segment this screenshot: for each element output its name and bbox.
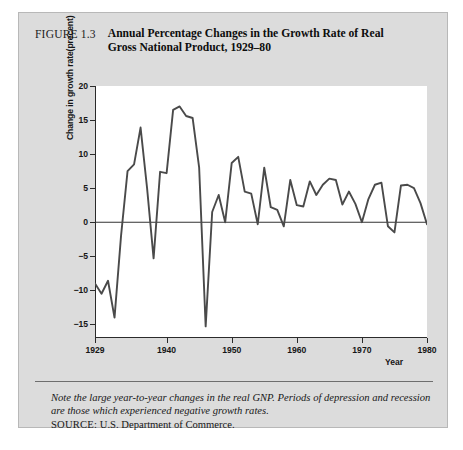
figure-title: Annual Percentage Changes in the Growth …	[108, 27, 408, 55]
y-axis-tick-10: 10	[54, 149, 95, 159]
gnp-growth-polyline	[95, 106, 427, 326]
x-axis-tick-1960: 1960	[274, 345, 320, 355]
x-axis-tick-1950: 1950	[209, 345, 255, 355]
y-axis-tick-neg5: −5	[54, 251, 95, 261]
x-axis-tick-1929: 1929	[72, 345, 118, 355]
x-axis-tick-1980: 1980	[404, 345, 450, 355]
x-axis-tickmark	[362, 338, 363, 343]
figure-source: SOURCE: U.S. Department of Commerce.	[51, 419, 235, 430]
x-axis-tick-1970: 1970	[339, 345, 385, 355]
chart-plot-region: Change in growth rate(precent) 20151050−…	[95, 86, 427, 338]
y-axis-tick-5: 5	[54, 183, 95, 193]
x-axis-tickmark	[427, 338, 428, 343]
x-axis-tickmark	[232, 338, 233, 343]
x-axis-tick-1940: 1940	[144, 345, 190, 355]
x-axis-tickmark	[95, 338, 96, 343]
source-text: U.S. Department of Commerce.	[100, 419, 235, 430]
figure-header: FIGURE 1.3 Annual Percentage Changes in …	[35, 27, 435, 55]
line-series-gnp-growth	[95, 86, 427, 338]
figure-frame: FIGURE 1.3 Annual Percentage Changes in …	[18, 12, 448, 428]
y-axis-tick-20: 20	[54, 81, 95, 91]
y-axis-tick-0: 0	[54, 217, 95, 227]
y-axis-tick-neg15: −15	[54, 319, 95, 329]
y-axis-tick-neg10: −10	[54, 285, 95, 295]
figure-note: Note the large year-to-year changes in t…	[51, 391, 441, 418]
x-axis-tickmark	[167, 338, 168, 343]
y-axis-tick-15: 15	[54, 115, 95, 125]
x-axis-tickmark	[297, 338, 298, 343]
figure-divider	[35, 381, 433, 382]
source-label: SOURCE:	[51, 419, 97, 430]
x-axis-title: Year	[385, 357, 403, 367]
